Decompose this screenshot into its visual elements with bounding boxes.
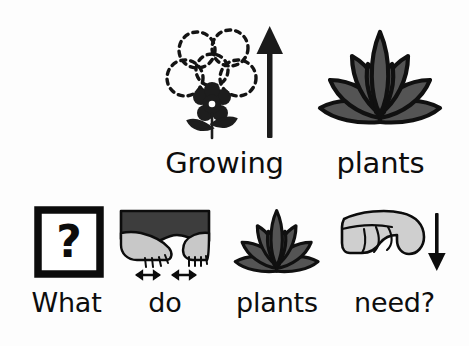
caption-need: need? [354,289,435,316]
svg-text:?: ? [56,216,82,267]
symbol-cell-do[interactable]: do [110,205,220,316]
caption-plants-title: plants [337,149,425,178]
leafy-plant-icon [308,18,453,143]
symbol-cell-growing[interactable]: Growing [152,18,297,178]
hand-pointing-down-icon [340,205,450,281]
symbol-cell-plants[interactable]: plants [222,205,332,316]
symbol-cell-what[interactable]: ? What [14,205,119,316]
caption-do: do [148,289,181,316]
flower-growing-up-arrow-icon [152,18,297,143]
symbol-cell-plants-title[interactable]: plants [308,18,453,178]
caption-growing: Growing [165,149,284,178]
question-mark-box-icon: ? [27,205,107,281]
symbol-card: Growing [0,0,469,346]
caption-what: What [31,289,101,316]
leafy-plant-icon [227,205,327,281]
caption-plants: plants [236,289,318,316]
two-hands-doing-icon [115,205,215,281]
symbol-cell-need[interactable]: need? [332,205,457,316]
